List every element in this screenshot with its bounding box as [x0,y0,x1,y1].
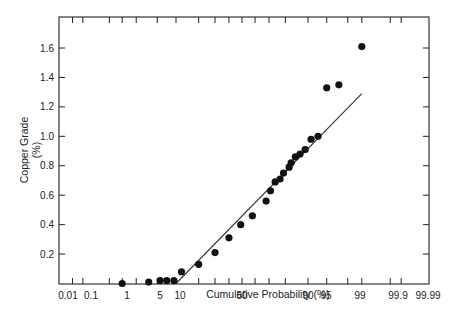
plot-border [59,17,429,284]
data-point [358,43,365,50]
data-point [323,84,330,91]
y-tick-label: 0.8 [40,160,54,171]
x-tick-label: 0.01 [58,290,78,301]
y-axis-title-line1: Copper Grade [18,117,30,184]
y-tick-label: 0.6 [40,190,54,201]
probability-plot: 0.010.115105090959999.999.99 0.20.40.60.… [0,0,457,327]
data-point [288,159,295,166]
data-point [262,197,269,204]
data-point [335,81,342,88]
data-point [145,278,152,285]
data-point [249,212,256,219]
data-point [225,234,232,241]
x-tick-label: 99.9 [388,290,408,301]
data-point [195,261,202,268]
data-point [178,268,185,275]
data-point [307,136,314,143]
y-tick-label: 0.2 [40,249,54,260]
data-point [314,133,321,140]
data-point [237,221,244,228]
data-point [267,187,274,194]
data-point [280,170,287,177]
x-tick-label: 99 [354,290,366,301]
y-tick-label: 0.4 [40,219,54,230]
x-axis-title: Cumulative Probability (%) [206,288,330,300]
x-tick-label: 99.99 [415,290,440,301]
x-tick-label: 5 [157,290,163,301]
x-tick-label: 0.1 [84,290,98,301]
data-point [211,249,218,256]
x-axis-ticks [73,17,402,284]
data-point [157,277,164,284]
data-point [170,277,177,284]
data-point [119,280,126,287]
plot-frame [59,17,429,284]
data-point [163,277,170,284]
x-tick-label: 10 [174,290,186,301]
x-tick-label: 1 [124,290,130,301]
y-axis-tick-labels: 0.20.40.60.81.01.21.41.6 [40,43,54,260]
y-tick-label: 1.2 [40,101,54,112]
y-axis-title: Copper Grade (%) [18,117,42,184]
y-axis-ticks [59,48,429,254]
data-points [119,43,366,287]
data-point [302,146,309,153]
y-tick-label: 1.0 [40,131,54,142]
y-tick-label: 1.6 [40,43,54,54]
y-axis-title-line2: (%) [30,142,42,158]
y-tick-label: 1.4 [40,72,54,83]
